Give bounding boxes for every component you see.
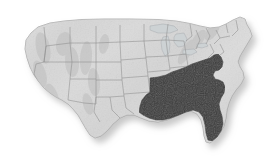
united-states-map[interactable] bbox=[0, 0, 274, 168]
map-figure bbox=[0, 0, 274, 168]
